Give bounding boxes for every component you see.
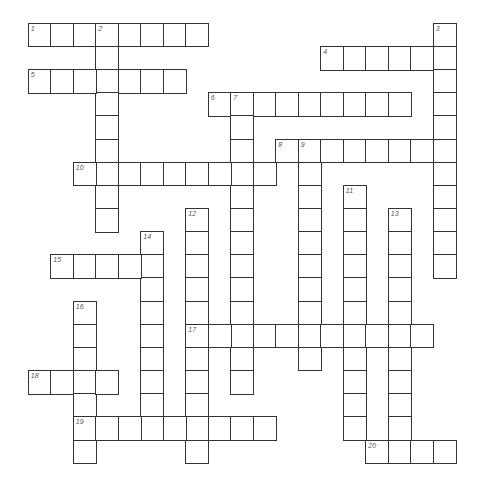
crossword-cell[interactable] — [95, 139, 119, 164]
crossword-cell[interactable]: 13 — [388, 208, 412, 233]
crossword-cell[interactable] — [388, 46, 412, 71]
crossword-cell[interactable] — [298, 277, 322, 302]
crossword-cell[interactable]: 1 — [28, 23, 52, 48]
crossword-cell[interactable] — [73, 69, 97, 94]
crossword-cell[interactable] — [230, 208, 254, 233]
crossword-cell[interactable] — [140, 416, 164, 441]
crossword-cell[interactable] — [410, 440, 434, 465]
crossword-cell[interactable] — [410, 324, 434, 349]
crossword-cell[interactable] — [410, 46, 434, 71]
crossword-cell[interactable]: 9 — [298, 139, 322, 164]
crossword-cell[interactable] — [95, 162, 119, 187]
crossword-cell[interactable] — [230, 370, 254, 395]
crossword-cell[interactable] — [433, 115, 457, 140]
crossword-cell[interactable] — [433, 92, 457, 117]
crossword-cell[interactable] — [343, 92, 367, 117]
crossword-cell[interactable] — [95, 208, 119, 233]
crossword-cell[interactable] — [208, 162, 232, 187]
crossword-cell[interactable] — [230, 301, 254, 326]
crossword-cell[interactable] — [388, 92, 412, 117]
crossword-cell[interactable] — [73, 23, 97, 48]
crossword-cell[interactable] — [433, 185, 457, 210]
crossword-cell[interactable]: 7 — [230, 92, 254, 117]
crossword-cell[interactable] — [50, 69, 74, 94]
crossword-cell[interactable] — [163, 416, 187, 441]
crossword-cell[interactable] — [140, 162, 164, 187]
crossword-cell[interactable] — [433, 162, 457, 187]
crossword-cell[interactable] — [185, 347, 209, 372]
crossword-cell[interactable] — [118, 69, 142, 94]
crossword-cell[interactable] — [208, 324, 232, 349]
crossword-cell[interactable] — [230, 185, 254, 210]
crossword-cell[interactable] — [73, 347, 97, 372]
crossword-cell[interactable] — [95, 254, 119, 279]
crossword-cell[interactable] — [253, 416, 277, 441]
crossword-cell[interactable] — [185, 162, 209, 187]
crossword-cell[interactable] — [275, 92, 299, 117]
crossword-cell[interactable] — [388, 139, 412, 164]
crossword-cell[interactable] — [433, 139, 457, 164]
crossword-cell[interactable] — [140, 393, 164, 418]
crossword-cell[interactable] — [388, 416, 412, 441]
crossword-cell[interactable] — [185, 231, 209, 256]
crossword-cell[interactable] — [388, 254, 412, 279]
crossword-cell[interactable] — [230, 231, 254, 256]
crossword-cell[interactable]: 15 — [50, 254, 74, 279]
crossword-cell[interactable] — [365, 324, 389, 349]
crossword-cell[interactable] — [298, 254, 322, 279]
crossword-cell[interactable] — [185, 393, 209, 418]
crossword-cell[interactable] — [185, 23, 209, 48]
crossword-cell[interactable]: 8 — [275, 139, 299, 164]
crossword-cell[interactable] — [343, 277, 367, 302]
crossword-cell[interactable] — [140, 277, 164, 302]
crossword-cell[interactable] — [388, 301, 412, 326]
crossword-cell[interactable] — [95, 370, 119, 395]
crossword-cell[interactable] — [298, 347, 322, 372]
crossword-cell[interactable] — [388, 277, 412, 302]
crossword-cell[interactable] — [320, 139, 344, 164]
crossword-cell[interactable] — [73, 370, 97, 395]
crossword-cell[interactable] — [118, 23, 142, 48]
crossword-cell[interactable] — [50, 370, 74, 395]
crossword-cell[interactable] — [298, 231, 322, 256]
crossword-cell[interactable] — [298, 162, 322, 187]
crossword-cell[interactable] — [95, 92, 119, 117]
crossword-cell[interactable] — [95, 69, 119, 94]
crossword-cell[interactable] — [230, 139, 254, 164]
crossword-cell[interactable] — [230, 162, 254, 187]
crossword-cell[interactable] — [253, 324, 277, 349]
crossword-cell[interactable] — [388, 231, 412, 256]
crossword-cell[interactable] — [50, 23, 74, 48]
crossword-cell[interactable] — [343, 46, 367, 71]
crossword-cell[interactable] — [118, 416, 142, 441]
crossword-cell[interactable] — [298, 92, 322, 117]
crossword-cell[interactable] — [343, 393, 367, 418]
crossword-cell[interactable] — [185, 301, 209, 326]
crossword-cell[interactable] — [230, 324, 254, 349]
crossword-cell[interactable] — [73, 440, 97, 465]
crossword-cell[interactable] — [388, 370, 412, 395]
crossword-cell[interactable] — [320, 92, 344, 117]
crossword-cell[interactable] — [433, 208, 457, 233]
crossword-cell[interactable] — [95, 416, 119, 441]
crossword-cell[interactable] — [230, 115, 254, 140]
crossword-cell[interactable]: 2 — [95, 23, 119, 48]
crossword-cell[interactable] — [343, 208, 367, 233]
crossword-cell[interactable] — [365, 46, 389, 71]
crossword-cell[interactable] — [410, 139, 434, 164]
crossword-cell[interactable] — [140, 69, 164, 94]
crossword-cell[interactable] — [320, 324, 344, 349]
crossword-cell[interactable]: 14 — [140, 231, 164, 256]
crossword-cell[interactable] — [388, 440, 412, 465]
crossword-cell[interactable] — [298, 208, 322, 233]
crossword-cell[interactable] — [343, 254, 367, 279]
crossword-cell[interactable]: 19 — [73, 416, 97, 441]
crossword-cell[interactable] — [118, 254, 142, 279]
crossword-cell[interactable] — [185, 277, 209, 302]
crossword-cell[interactable] — [95, 185, 119, 210]
crossword-cell[interactable] — [140, 301, 164, 326]
crossword-cell[interactable] — [163, 23, 187, 48]
crossword-cell[interactable] — [433, 231, 457, 256]
crossword-cell[interactable] — [185, 440, 209, 465]
crossword-cell[interactable] — [298, 185, 322, 210]
